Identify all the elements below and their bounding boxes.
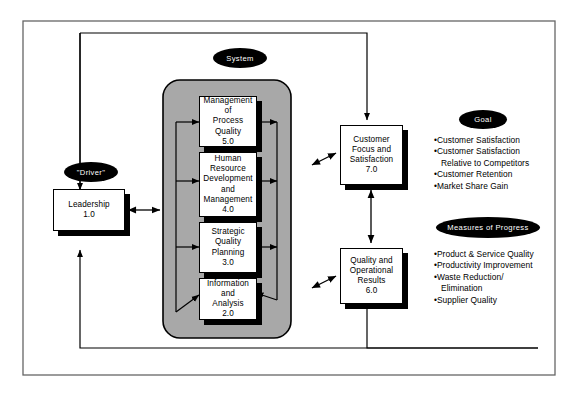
measures-item: •Supplier Quality [434,295,574,306]
oval-system-label: System [226,54,253,63]
oval-goal: Goal [459,110,507,129]
node-information-and-analysis[interactable]: Information and Analysis 2.0 [199,278,257,320]
measures-item: Elimination [434,283,574,294]
node-quality-results-label: Quality and Operational Results 6.0 [347,256,396,297]
oval-measures-of-progress: Measures of Progress [436,217,540,238]
system-results-arrow [312,276,336,288]
oval-goal-label: Goal [474,115,491,124]
measures-item: •Product & Service Quality [434,249,574,260]
node-strategic-planning-label: Strategic Quality Planning 3.0 [208,227,247,268]
goal-item: •Customer Satisfaction [434,135,574,146]
node-customer-focus-label: Customer Focus and Satisfaction 7.0 [347,135,397,176]
node-human-resource-development[interactable]: Human Resource Development and Managemen… [199,152,257,217]
node-strategic-quality-planning[interactable]: Strategic Quality Planning 3.0 [199,222,257,273]
oval-driver: "Driver" [64,162,118,182]
node-leadership-label: Leadership 1.0 [65,200,113,220]
diagram-canvas: System "Driver" Goal Measures of Progres… [0,0,579,397]
node-process-quality-label: Management of Process Quality 5.0 [200,96,256,147]
system-customer-arrow [312,153,336,165]
measures-item: •Waste Reduction/ [434,272,574,283]
goal-item: •Customer Retention [434,169,574,180]
node-human-resource-label: Human Resource Development and Managemen… [200,154,255,215]
node-quality-and-operational-results[interactable]: Quality and Operational Results 6.0 [340,248,403,304]
measures-bullet-list: •Product & Service Quality •Productivity… [434,249,574,306]
oval-driver-label: "Driver" [77,168,105,177]
node-customer-focus-and-satisfaction[interactable]: Customer Focus and Satisfaction 7.0 [340,125,403,185]
oval-measures-label: Measures of Progress [447,223,528,232]
node-management-of-process-quality[interactable]: Management of Process Quality 5.0 [199,96,257,147]
node-leadership[interactable]: Leadership 1.0 [53,189,125,231]
oval-system: System [213,48,267,68]
goal-item: •Customer Satisfaction [434,146,574,157]
node-information-label: Information and Analysis 2.0 [200,279,256,320]
goal-item: Relative to Competitors [434,158,574,169]
goal-bullet-list: •Customer Satisfaction •Customer Satisfa… [434,135,574,192]
goal-item: •Market Share Gain [434,181,574,192]
measures-item: •Productivity Improvement [434,260,574,271]
